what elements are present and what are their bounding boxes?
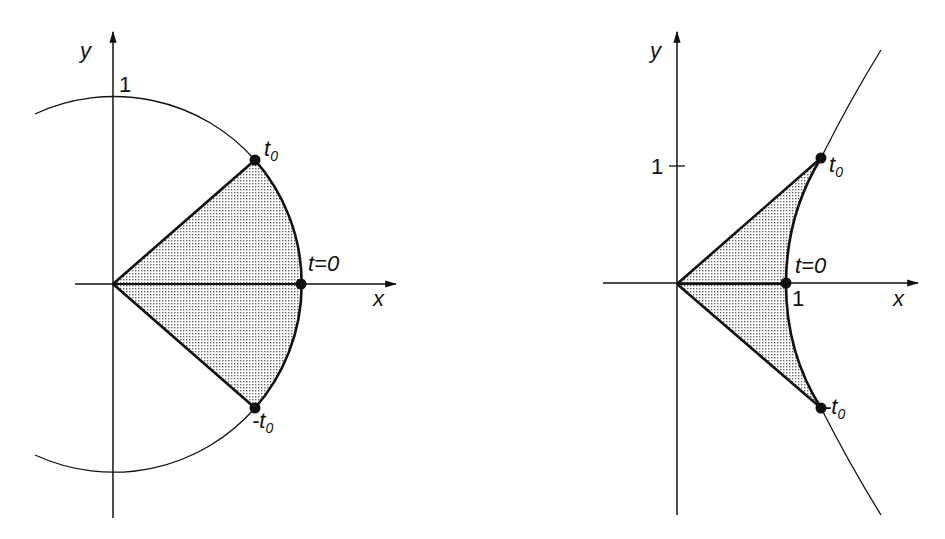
point-t0	[250, 155, 261, 166]
point-t-zero	[296, 279, 307, 290]
hyperbola-figure: y 1 1 x t0 t=0 -t0	[603, 32, 918, 515]
x-axis-label: x	[892, 286, 905, 311]
point-t-zero	[781, 278, 792, 289]
x-tick-one: 1	[792, 286, 804, 311]
y-axis-label: y	[78, 38, 93, 63]
label-t-zero: t=0	[795, 253, 827, 278]
y-tick-one: 1	[119, 72, 131, 97]
x-axis-label: x	[372, 286, 385, 311]
label-t-zero: t=0	[308, 251, 340, 276]
label-minus-t0: -t0	[824, 394, 845, 422]
unit-circle-arc	[35, 97, 255, 160]
point-t0	[816, 153, 827, 164]
label-t0: t0	[829, 152, 843, 180]
hyperbola-lower-branch	[821, 408, 881, 515]
circle-figure: y 1 x t0 t=0 -t0	[35, 32, 396, 518]
diagram-canvas: y 1 x t0 t=0 -t0 y 1 1 x t0 t=0 -t0	[0, 0, 945, 539]
label-t0: t0	[264, 136, 278, 164]
y-tick-one: 1	[651, 154, 663, 179]
label-minus-t0: -t0	[252, 408, 273, 436]
unit-circle-arc-lower	[35, 408, 255, 472]
y-axis-label: y	[648, 38, 663, 63]
hyperbola-upper-branch	[821, 50, 881, 158]
